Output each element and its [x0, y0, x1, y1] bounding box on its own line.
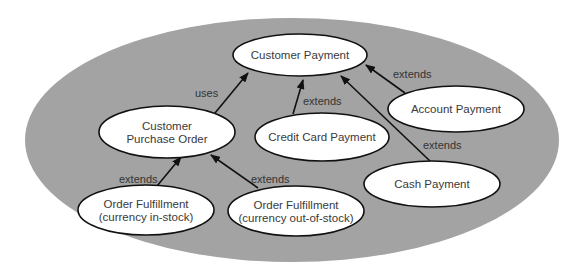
use-case-label: Order Fulfillment: [254, 199, 340, 211]
use-case-label: Cash Payment: [394, 178, 470, 190]
use-case-order-fulfillment-out-of-stock[interactable]: Order Fulfillment(currency out-of-stock): [228, 186, 364, 236]
use-case-credit-card-payment[interactable]: Credit Card Payment: [255, 113, 389, 161]
use-case-label: Credit Card Payment: [268, 131, 376, 143]
use-case-label: (currency out-of-stock): [238, 212, 353, 224]
use-case-label: Customer Payment: [251, 49, 350, 61]
edge-label: extends: [251, 173, 290, 185]
use-case-label: Account Payment: [411, 103, 502, 115]
use-case-label: Purchase Order: [126, 133, 207, 145]
edge-label: extends: [393, 68, 432, 80]
use-case-label: (currency in-stock): [99, 211, 194, 223]
use-case-customer-purchase-order[interactable]: CustomerPurchase Order: [99, 106, 235, 158]
use-case-label: Customer: [142, 120, 192, 132]
edge-label: extends: [423, 139, 462, 151]
use-case-order-fulfillment-in-stock[interactable]: Order Fulfillment(currency in-stock): [78, 185, 214, 235]
use-case-customer-payment[interactable]: Customer Payment: [233, 34, 367, 76]
edge-label: extends: [119, 173, 158, 185]
use-case-account-payment[interactable]: Account Payment: [388, 86, 524, 132]
use-case-label: Order Fulfillment: [104, 198, 190, 210]
edge-label: uses: [195, 87, 219, 99]
use-case-cash-payment[interactable]: Cash Payment: [364, 161, 500, 207]
use-case-diagram: usesextendsextendsextendsextendsextends …: [0, 0, 586, 271]
diagram-canvas: usesextendsextendsextendsextendsextends …: [0, 0, 586, 271]
edge-label: extends: [303, 95, 342, 107]
